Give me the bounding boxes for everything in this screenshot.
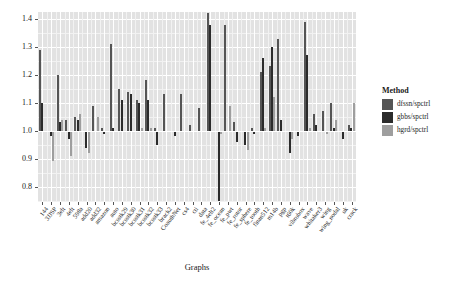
legend-item[interactable]: gbbs/spctrl xyxy=(382,111,468,124)
bar-group xyxy=(118,12,125,202)
bar xyxy=(280,120,282,131)
bar-group xyxy=(83,12,90,202)
bar xyxy=(156,131,158,145)
legend-label: dfssn/spctrl xyxy=(397,101,430,108)
bar xyxy=(138,103,140,131)
bar xyxy=(92,106,94,131)
bar xyxy=(233,122,235,130)
bar-group xyxy=(304,12,311,202)
y-axis-tick-label: 0.9 xyxy=(4,155,32,163)
bar-group xyxy=(198,12,205,202)
bar xyxy=(353,103,355,131)
bar xyxy=(342,131,344,139)
y-axis-tick-label: 1.2 xyxy=(4,71,32,79)
y-axis-tick-label: 1.3 xyxy=(4,43,32,51)
bar xyxy=(97,117,99,131)
bar-group xyxy=(322,12,329,202)
y-axis: 0.80.91.01.11.21.31.4 xyxy=(0,0,38,284)
bar-group xyxy=(136,12,143,202)
chart-root: 0.80.91.01.11.21.31.4 Cut ratio 1443JJSP… xyxy=(0,0,469,284)
legend-item[interactable]: dfssn/spctrl xyxy=(382,98,468,111)
legend-label: gbbs/spctrl xyxy=(397,114,429,121)
bar-group xyxy=(39,12,46,202)
bar xyxy=(130,94,132,130)
bar-group xyxy=(48,12,55,202)
bar-group xyxy=(74,12,81,202)
bar xyxy=(273,97,275,131)
bar-group xyxy=(189,12,196,202)
bar xyxy=(61,120,63,131)
bar-group xyxy=(110,12,117,202)
bar-group xyxy=(163,12,170,202)
legend-swatch xyxy=(382,99,393,110)
bar-group xyxy=(216,12,223,202)
baseline xyxy=(38,131,356,132)
legend-items: dfssn/spctrlgbbs/spctrlhgrd/spctrl xyxy=(382,98,468,137)
bar-group xyxy=(295,12,302,202)
x-axis-tick-label: cs4 xyxy=(180,206,190,217)
bar-group xyxy=(260,12,267,202)
bar xyxy=(79,114,81,131)
bar-group xyxy=(330,12,337,202)
bar xyxy=(121,100,123,131)
bar-group xyxy=(339,12,346,202)
legend-item[interactable]: hgrd/spctrl xyxy=(382,124,468,137)
bar-group xyxy=(269,12,276,202)
legend-label: hgrd/spctrl xyxy=(397,127,428,134)
bar xyxy=(291,131,293,139)
bar-group xyxy=(242,12,249,202)
bar xyxy=(110,44,112,131)
bar xyxy=(330,103,332,131)
bar xyxy=(236,131,238,142)
bar xyxy=(180,94,182,130)
bar-group xyxy=(286,12,293,202)
bar-group xyxy=(101,12,108,202)
bar xyxy=(52,131,54,162)
x-axis-label: Graphs xyxy=(38,262,356,272)
bar-group xyxy=(224,12,231,202)
bar-group xyxy=(145,12,152,202)
bar-group xyxy=(207,12,214,202)
plot-panel xyxy=(38,12,356,202)
legend: Method dfssn/spctrlgbbs/spctrlhgrd/spctr… xyxy=(382,86,468,137)
bar xyxy=(229,106,231,131)
bar xyxy=(277,39,279,131)
bar-group xyxy=(348,12,355,202)
bar xyxy=(306,55,308,130)
y-axis-tick-label: 1.1 xyxy=(4,99,32,107)
bar-group xyxy=(277,12,284,202)
bar-group xyxy=(251,12,258,202)
bar xyxy=(224,25,226,131)
bar xyxy=(147,100,149,131)
legend-swatch xyxy=(382,125,393,136)
y-axis-tick-label: 0.8 xyxy=(4,183,32,191)
legend-title: Method xyxy=(382,86,468,95)
bar-group xyxy=(127,12,134,202)
bar xyxy=(198,108,200,130)
bar xyxy=(209,25,211,131)
bar xyxy=(322,111,324,131)
bar-group xyxy=(154,12,161,202)
y-axis-tick-label: 1.0 xyxy=(4,127,32,135)
bar xyxy=(335,120,337,131)
bar xyxy=(41,103,43,131)
bar xyxy=(262,58,264,131)
bar xyxy=(65,120,67,131)
bar-group xyxy=(180,12,187,202)
y-axis-label: Cut ratio xyxy=(0,0,12,28)
bar-group xyxy=(57,12,64,202)
bar xyxy=(70,131,72,156)
bar-group xyxy=(313,12,320,202)
bar-group xyxy=(171,12,178,202)
bar xyxy=(218,131,220,201)
bar xyxy=(88,131,90,153)
bar-group xyxy=(92,12,99,202)
bar-group xyxy=(233,12,240,202)
x-axis: 1443JJSP3elt4elt598aadd20add32amazonauto… xyxy=(38,202,356,262)
bar xyxy=(163,94,165,130)
bar xyxy=(247,131,249,151)
legend-swatch xyxy=(382,112,393,123)
bar-group xyxy=(65,12,72,202)
